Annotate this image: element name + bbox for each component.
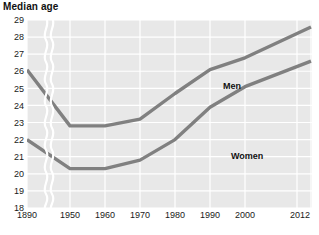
- y-tick-24: 24: [2, 102, 24, 111]
- y-tick-27: 27: [2, 50, 24, 59]
- y-tick-26: 26: [2, 67, 24, 76]
- series-label-women: Women: [231, 151, 263, 161]
- y-tick-21: 21: [2, 153, 24, 162]
- x-tick-1980: 1980: [165, 210, 185, 220]
- x-tick-1990: 1990: [200, 210, 220, 220]
- y-tick-23: 23: [2, 119, 24, 128]
- x-tick-2012: 2012: [290, 210, 310, 220]
- y-tick-28: 28: [2, 33, 24, 42]
- x-tick-2000: 2000: [235, 210, 255, 220]
- axis-break-squiggle: [45, 20, 54, 208]
- x-axis-labels: 1890 1950 1960 1970 1980 1990 2000 2012: [0, 210, 319, 226]
- y-axis-labels: 29 28 27 26 25 24 23 22 21 20 19 18: [0, 20, 24, 208]
- x-tick-1950: 1950: [60, 210, 80, 220]
- series-label-men: Men: [223, 81, 241, 91]
- plot-canvas: [27, 20, 312, 208]
- y-tick-19: 19: [2, 187, 24, 196]
- plot-area: Men Women: [27, 20, 312, 208]
- x-tick-1970: 1970: [130, 210, 150, 220]
- x-tick-1890: 1890: [17, 210, 37, 220]
- x-tick-1960: 1960: [95, 210, 115, 220]
- y-tick-29: 29: [2, 16, 24, 25]
- page-title: Median age: [3, 1, 58, 12]
- y-tick-25: 25: [2, 85, 24, 94]
- median-age-chart: Median age: [0, 0, 319, 235]
- y-tick-22: 22: [2, 136, 24, 145]
- y-tick-20: 20: [2, 170, 24, 179]
